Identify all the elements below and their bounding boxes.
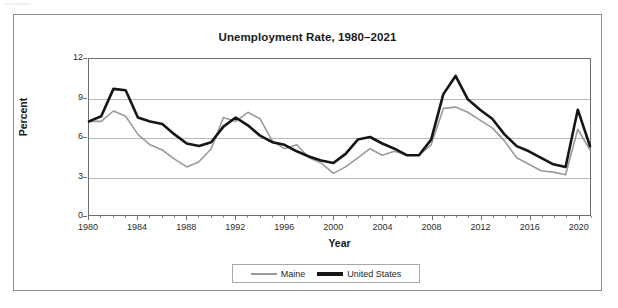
x-tick-minor-1993 <box>247 216 248 218</box>
x-tick-minor-1991 <box>223 216 224 218</box>
x-tick-label-1992: 1992 <box>225 222 245 232</box>
x-tick-minor-2006 <box>407 216 408 218</box>
x-tick-minor-2019 <box>566 216 567 218</box>
x-tick-minor-2011 <box>468 216 469 218</box>
x-tick-label-1996: 1996 <box>274 222 294 232</box>
x-tick-minor-1994 <box>260 216 261 218</box>
x-tick-minor-2013 <box>493 216 494 218</box>
x-tick-minor-2014 <box>505 216 506 218</box>
y-tick-label-12: 12 <box>61 52 83 62</box>
x-tick-minor-1998 <box>309 216 310 218</box>
legend-item-united-states: United States <box>317 269 401 279</box>
legend-label-maine: Maine <box>281 269 306 279</box>
x-tick-minor-1985 <box>149 216 150 218</box>
x-tick-major-1996 <box>284 216 285 220</box>
legend-item-maine: Maine <box>251 269 306 279</box>
x-tick-major-2012 <box>481 216 482 220</box>
series-line-united-states <box>89 76 590 167</box>
y-axis-title: Percent <box>17 98 29 137</box>
x-tick-major-2008 <box>432 216 433 220</box>
x-tick-minor-1989 <box>198 216 199 218</box>
x-tick-major-2000 <box>333 216 334 220</box>
x-tick-minor-1987 <box>174 216 175 218</box>
y-tick-label-6: 6 <box>61 131 83 141</box>
series-line-maine <box>89 107 590 175</box>
x-tick-label-2000: 2000 <box>323 222 343 232</box>
x-tick-minor-2002 <box>358 216 359 218</box>
page-scrap-text-top: not available. <box>4 1 124 7</box>
x-tick-minor-1982 <box>113 216 114 218</box>
x-tick-major-1984 <box>137 216 138 220</box>
x-tick-minor-2015 <box>517 216 518 218</box>
x-tick-major-2004 <box>382 216 383 220</box>
x-tick-minor-2001 <box>346 216 347 218</box>
x-tick-minor-1997 <box>297 216 298 218</box>
x-tick-label-2004: 2004 <box>372 222 392 232</box>
x-tick-minor-2018 <box>554 216 555 218</box>
x-tick-minor-1986 <box>162 216 163 218</box>
x-tick-minor-1983 <box>125 216 126 218</box>
x-tick-major-2016 <box>530 216 531 220</box>
x-tick-label-2008: 2008 <box>421 222 441 232</box>
x-tick-label-2016: 2016 <box>520 222 540 232</box>
x-axis-title: Year <box>88 237 591 249</box>
legend-swatch-maine-icon <box>251 273 277 275</box>
x-tick-minor-2005 <box>395 216 396 218</box>
legend-label-united-states: United States <box>347 269 401 279</box>
plot-area <box>88 58 591 216</box>
x-tick-major-1988 <box>186 216 187 220</box>
x-tick-label-1984: 1984 <box>127 222 147 232</box>
y-axis-ticks: 036912 <box>57 58 83 216</box>
x-tick-label-1988: 1988 <box>176 222 196 232</box>
y-tick-mark-9 <box>83 98 87 99</box>
chart-legend: Maine United States <box>232 264 420 283</box>
x-tick-minor-1995 <box>272 216 273 218</box>
x-tick-minor-2017 <box>542 216 543 218</box>
x-tick-minor-1990 <box>211 216 212 218</box>
x-tick-label-1980: 1980 <box>78 222 98 232</box>
y-tick-mark-6 <box>83 137 87 138</box>
x-tick-label-2020: 2020 <box>569 222 589 232</box>
x-tick-minor-2007 <box>419 216 420 218</box>
x-tick-label-2012: 2012 <box>471 222 491 232</box>
y-tick-mark-3 <box>83 177 87 178</box>
x-tick-minor-1981 <box>100 216 101 218</box>
legend-swatch-united-states-icon <box>317 272 343 276</box>
x-tick-minor-2009 <box>444 216 445 218</box>
x-tick-major-2020 <box>579 216 580 220</box>
y-tick-mark-12 <box>83 58 87 59</box>
x-tick-minor-1999 <box>321 216 322 218</box>
x-tick-minor-2021 <box>591 216 592 218</box>
chart-title: Unemployment Rate, 1980–2021 <box>14 31 601 43</box>
y-tick-label-3: 3 <box>61 171 83 181</box>
y-tick-label-9: 9 <box>61 92 83 102</box>
x-tick-major-1980 <box>88 216 89 220</box>
y-tick-mark-0 <box>83 216 87 217</box>
x-tick-major-1992 <box>235 216 236 220</box>
x-tick-minor-2003 <box>370 216 371 218</box>
page-scrap-text-bottom <box>4 300 424 307</box>
series-lines <box>89 59 590 215</box>
x-tick-minor-2010 <box>456 216 457 218</box>
figure-frame: Unemployment Rate, 1980–2021 Percent 036… <box>13 14 602 291</box>
y-tick-label-0: 0 <box>61 210 83 220</box>
